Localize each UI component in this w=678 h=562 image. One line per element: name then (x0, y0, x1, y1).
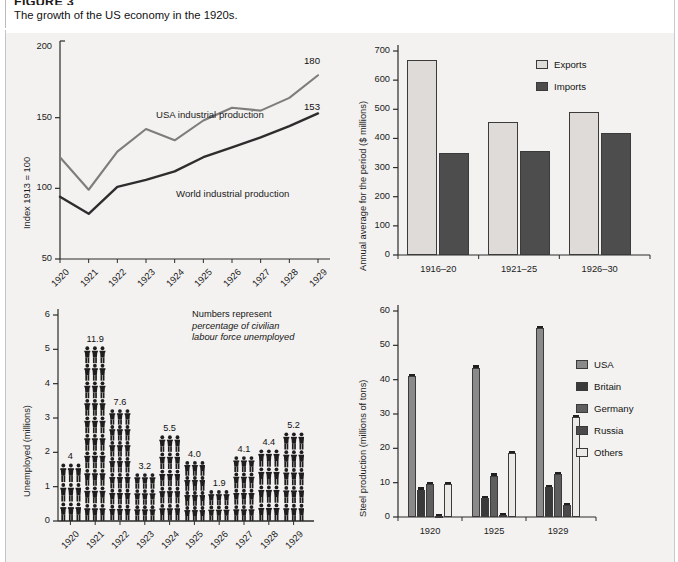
chart4-bar-others-1925 (508, 453, 516, 517)
right-rule (674, 0, 675, 562)
chart1-series-label-usa: USA industrial production (156, 109, 264, 120)
chart4-barcap-germany-1925 (491, 473, 497, 475)
chart1-ytick-150: 150 (20, 112, 52, 122)
chart4-bar-britain-1929 (545, 487, 553, 517)
chart3-pictogram-1928 (258, 449, 280, 521)
chart-trade: Annual average for the period ($ million… (340, 33, 674, 297)
chart4-legend-label-germany: Germany (594, 403, 633, 414)
chart1-ytick-50: 50 (20, 253, 52, 263)
chart4-barcap-others-1920 (445, 482, 451, 484)
chart4-bar-germany-1920 (426, 484, 434, 517)
chart2-ytick-500: 500 (356, 103, 390, 113)
chart4-barcap-russia-1925 (500, 513, 506, 515)
chart4-barcap-britain-1920 (418, 487, 424, 489)
chart4-ytick-60: 60 (362, 305, 390, 315)
chart-unemployment: Unemployed (millions) 0123456 Numbers re… (6, 297, 340, 562)
chart4-legend-label-russia: Russia (594, 425, 623, 436)
chart4-legend-item-germany: Germany (576, 403, 633, 414)
chart4-bar-russia-1925 (499, 515, 507, 517)
chart4-barcap-others-1929 (573, 415, 579, 417)
chart3-pictogram-1926 (208, 490, 230, 521)
chart4-legend-label-britain: Britain (594, 381, 621, 392)
chart3-datalabel-1928: 4.4 (247, 437, 291, 447)
chart3-ytick-4: 4 (24, 378, 50, 388)
chart3-bar-1921 (84, 346, 106, 521)
chart-industrial-production: Index 1913 = 100 50100150200 19201921192… (6, 33, 340, 297)
chart4-axes (340, 297, 674, 562)
chart4-ytick-0: 0 (362, 511, 390, 521)
chart2-legend-label-exports: Exports (554, 59, 587, 70)
chart1-y-axis-label: Index 1913 = 100 (22, 157, 32, 229)
chart3-datalabel-1925: 4.0 (172, 449, 216, 459)
chart2-ytick-600: 600 (356, 74, 390, 84)
chart4-barcap-russia-1920 (436, 514, 442, 516)
chart3-note-line-0: Numbers represent (192, 309, 294, 321)
chart3-ytick-0: 0 (24, 515, 50, 525)
chart4-barcap-usa-1920 (409, 374, 415, 376)
chart4-bar-others-1920 (444, 484, 452, 517)
chart2-bar-imports-1926–30 (601, 133, 631, 255)
chart4-ytick-30: 30 (362, 408, 390, 418)
chart4-bar-germany-1929 (554, 474, 562, 517)
chart4-barcap-germany-1929 (555, 472, 561, 474)
chart3-bar-1926 (208, 490, 230, 521)
chart4-legend-item-russia: Russia (576, 425, 623, 436)
chart4-legend-item-usa: USA (576, 359, 614, 370)
chart3-datalabel-1920: 4 (48, 451, 92, 461)
chart2-bar-exports-1921–25 (488, 122, 518, 255)
chart3-datalabel-1929: 5.2 (272, 420, 316, 430)
figure-number: FIGURE 3 (14, 0, 614, 5)
chart1-series-label-world: World industrial production (176, 188, 289, 199)
chart4-bar-britain-1920 (417, 490, 425, 517)
chart3-datalabel-1922: 7.6 (98, 397, 142, 407)
chart4-ytick-40: 40 (362, 374, 390, 384)
chart2-legend-item-imports: Imports (536, 81, 586, 92)
figure-header: FIGURE 3 The growth of the US economy in… (14, 0, 614, 22)
chart3-pictogram-1921 (84, 346, 106, 521)
chart2-y-axis-label: Annual average for the period ($ million… (358, 101, 368, 271)
chart3-bar-1923 (134, 473, 156, 521)
chart3-ytick-1: 1 (24, 481, 50, 491)
chart1-endvalue-usa: 180 (304, 55, 320, 66)
chart4-legend-item-britain: Britain (576, 381, 621, 392)
chart2-bar-exports-1916–20 (407, 60, 437, 255)
chart4-xtick-1925: 1925 (464, 526, 524, 536)
chart4-barcap-usa-1929 (537, 326, 543, 328)
chart2-ytick-0: 0 (356, 249, 390, 259)
chart4-bar-russia-1920 (435, 516, 443, 518)
swatch-imports (536, 82, 548, 91)
swatch-russia (576, 426, 588, 435)
chart2-ytick-100: 100 (356, 220, 390, 230)
chart3-bar-1927 (233, 456, 255, 521)
chart1-endvalue-world: 153 (304, 101, 320, 112)
chart2-xtick-1921–25: 1921–25 (487, 264, 551, 274)
chart1-ytick-200: 200 (20, 41, 52, 51)
chart2-ytick-200: 200 (356, 191, 390, 201)
chart4-barcap-russia-1929 (564, 503, 570, 505)
chart3-pictogram-1925 (184, 461, 206, 521)
chart3-ytick-6: 6 (24, 309, 50, 319)
figure-page: FIGURE 3 The growth of the US economy in… (0, 0, 678, 562)
chart4-ytick-10: 10 (362, 477, 390, 487)
chart4-barcap-britain-1925 (482, 496, 488, 498)
figure-title: The growth of the US economy in the 1920… (14, 8, 614, 22)
chart3-pictogram-1923 (134, 473, 156, 521)
chart3-bar-1920 (60, 463, 82, 521)
swatch-britain (576, 382, 588, 391)
chart4-xtick-1920: 1920 (400, 526, 460, 536)
chart2-xtick-1916–20: 1916–20 (406, 264, 470, 274)
chart4-xtick-1929: 1929 (528, 526, 588, 536)
chart3-pictogram-1927 (233, 456, 255, 521)
chart2-ytick-300: 300 (356, 162, 390, 172)
chart3-datalabel-1926: 1.9 (197, 478, 241, 488)
chart4-barcap-usa-1925 (473, 365, 479, 367)
chart3-note: Numbers representpercentage of civilianl… (192, 309, 294, 344)
chart4-barcap-britain-1929 (546, 485, 552, 487)
chart3-datalabel-1921: 11.9 (73, 334, 117, 344)
chart3-datalabel-1923: 3.2 (123, 461, 167, 471)
chart4-bar-britain-1925 (481, 498, 489, 517)
swatch-germany (576, 404, 588, 413)
chart4-bar-usa-1925 (472, 368, 480, 517)
swatch-others (576, 448, 588, 457)
swatch-exports (536, 60, 548, 69)
